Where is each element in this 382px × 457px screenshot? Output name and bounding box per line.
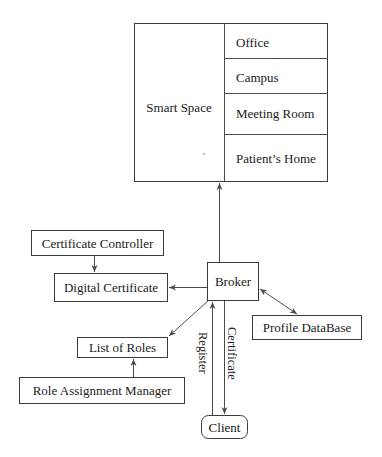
role-assignment-manager-label: Role Assignment Manager	[33, 383, 172, 398]
architecture-diagram: Smart Space Office Campus Meeting Room P…	[0, 0, 382, 457]
stray-dot	[203, 153, 205, 155]
profile-database-node: Profile DataBase	[253, 316, 362, 340]
list-of-roles-node: List of Roles	[78, 338, 168, 358]
location-patients-home: Patient’s Home	[236, 151, 316, 166]
location-campus: Campus	[236, 70, 279, 85]
edge-broker-to-listofroles	[169, 301, 208, 336]
list-of-roles-label: List of Roles	[89, 340, 156, 355]
edge-broker-profiledb	[260, 289, 297, 314]
certificate-controller-node: Certificate Controller	[32, 231, 164, 256]
profile-database-label: Profile DataBase	[263, 320, 352, 335]
digital-certificate-node: Digital Certificate	[55, 274, 168, 302]
certificate-controller-label: Certificate Controller	[42, 236, 154, 251]
broker-label: Broker	[215, 274, 252, 289]
certificate-edge-label: Certificate	[225, 327, 239, 380]
location-meeting-room: Meeting Room	[236, 106, 314, 121]
client-label: Client	[209, 420, 241, 435]
client-node: Client	[202, 416, 248, 439]
digital-certificate-label: Digital Certificate	[64, 280, 158, 295]
location-office: Office	[236, 35, 269, 50]
smart-space-box: Smart Space Office Campus Meeting Room P…	[135, 24, 328, 182]
smart-space-label: Smart Space	[146, 100, 212, 115]
broker-node: Broker	[208, 263, 259, 301]
role-assignment-manager-node: Role Assignment Manager	[20, 378, 185, 404]
register-edge-label: Register	[196, 332, 210, 374]
